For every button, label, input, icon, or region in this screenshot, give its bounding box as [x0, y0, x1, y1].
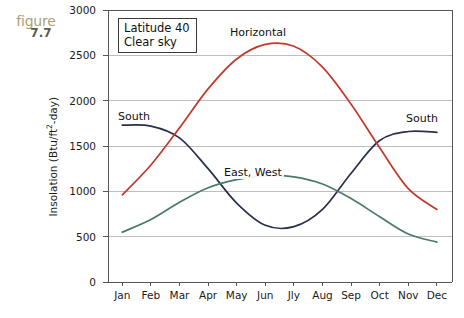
annotation-line-sky: Clear sky: [124, 35, 190, 49]
figure-root: figure 7.7 Insolation (Btu/ft2-day): [0, 0, 464, 318]
series-label-horizontal: Horizontal: [228, 27, 288, 39]
series-label-south-right: South: [404, 113, 440, 125]
y-tick-label-2500: 2500: [60, 50, 96, 61]
chart-canvas: [0, 0, 464, 318]
y-tick-label-2000: 2000: [60, 96, 96, 107]
x-tick-label-dec: Dec: [420, 290, 454, 301]
grid-lines: [108, 55, 452, 236]
series-label-east-west: East, West: [222, 167, 284, 179]
series-line-east-west: [122, 176, 437, 242]
data-series-group: [122, 43, 437, 242]
annotation-line-latitude: Latitude 40: [124, 21, 190, 35]
insolation-line-chart: Insolation (Btu/ft2-day): [0, 0, 464, 318]
y-tick-marks: [103, 10, 108, 282]
y-tick-label-3000: 3000: [60, 5, 96, 16]
series-line-horizontal: [122, 43, 437, 209]
series-label-south-left: South: [116, 111, 152, 123]
x-tick-marks: [122, 282, 437, 286]
y-tick-label-500: 500: [60, 232, 96, 243]
chart-annotation-box: Latitude 40 Clear sky: [118, 18, 197, 53]
y-tick-label-1500: 1500: [60, 141, 96, 152]
y-tick-label-1000: 1000: [60, 186, 96, 197]
y-tick-label-0: 0: [60, 277, 96, 288]
